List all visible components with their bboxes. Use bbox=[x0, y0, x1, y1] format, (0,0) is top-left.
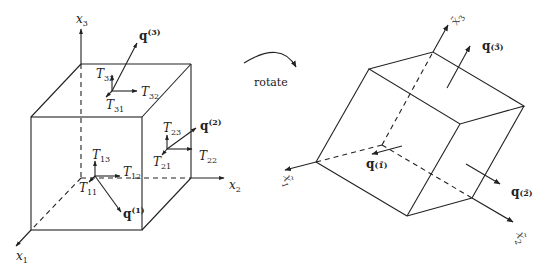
x2-axis-label: x2 bbox=[229, 178, 241, 194]
T23-label: T23 bbox=[163, 121, 181, 137]
rotated-cube bbox=[316, 52, 524, 216]
rotate-label: rotate bbox=[254, 76, 288, 89]
cube-edge bbox=[142, 178, 191, 230]
cube-edge bbox=[142, 64, 191, 117]
T11-arrow bbox=[89, 176, 95, 182]
x1-tilde-label: x̃1 bbox=[278, 173, 297, 189]
curved-arrow-icon bbox=[244, 52, 296, 67]
T13-label: T13 bbox=[92, 148, 110, 164]
rotated-edge bbox=[407, 124, 460, 216]
cube-edge bbox=[31, 64, 81, 117]
rotate-transition: rotate bbox=[244, 52, 296, 89]
original-axes: x3 x2 x1 bbox=[16, 12, 241, 265]
x1-tilde-axis-arrow bbox=[285, 162, 316, 170]
q1-tilde-arrow bbox=[372, 146, 402, 154]
T21-label: T21 bbox=[153, 155, 171, 171]
x2-tilde-label: x̃2 bbox=[511, 230, 530, 246]
face-1-vectors: q(1) T13 T12 T11 bbox=[79, 148, 145, 221]
x2-tilde-axis-arrow bbox=[472, 198, 513, 222]
T33-label: T33 bbox=[96, 67, 114, 83]
face-2-vectors: q(2) T23 T22 T21 bbox=[153, 117, 222, 171]
rotated-edge bbox=[316, 69, 369, 162]
q1-arrow bbox=[95, 176, 121, 212]
rotated-top-face bbox=[369, 52, 524, 124]
rotated-hidden-edge bbox=[382, 52, 433, 145]
x1-axis-arrow bbox=[16, 230, 31, 246]
q1-tilde-label: q(1̃) bbox=[366, 157, 388, 171]
stress-tensor-diagram: x3 x2 x1 q(3) T33 T32 T31 q(2) T23 T22 T… bbox=[0, 0, 542, 269]
x1-axis-label: x1 bbox=[16, 249, 28, 265]
T31-arrow bbox=[106, 91, 112, 97]
T12-label: T12 bbox=[123, 165, 141, 181]
rotated-hidden-edge bbox=[382, 145, 472, 198]
x3-tilde-axis-arrow bbox=[433, 25, 448, 52]
T32-label: T32 bbox=[141, 85, 159, 101]
T21-arrow bbox=[162, 149, 167, 155]
q3-arrow bbox=[112, 43, 137, 91]
face-3-vectors: q(3) T33 T32 T31 bbox=[96, 27, 161, 114]
q3-label: q(3) bbox=[139, 27, 161, 43]
q3-tilde-label: q(3̃) bbox=[482, 39, 504, 53]
q2-tilde-label: q(2̃) bbox=[511, 185, 533, 199]
x3-tilde-label: x̃3 bbox=[447, 10, 467, 28]
T22-label: T22 bbox=[199, 149, 217, 165]
rotated-edge bbox=[316, 162, 407, 216]
rotated-edge bbox=[407, 198, 472, 216]
T11-label: T11 bbox=[79, 181, 97, 197]
x3-axis-label: x3 bbox=[76, 12, 88, 28]
q3-tilde-arrow bbox=[447, 46, 470, 88]
hidden-edge bbox=[31, 178, 81, 230]
q2-tilde-arrow bbox=[466, 164, 500, 184]
T31-label: T31 bbox=[106, 98, 124, 114]
q2-label: q(2) bbox=[200, 117, 222, 133]
